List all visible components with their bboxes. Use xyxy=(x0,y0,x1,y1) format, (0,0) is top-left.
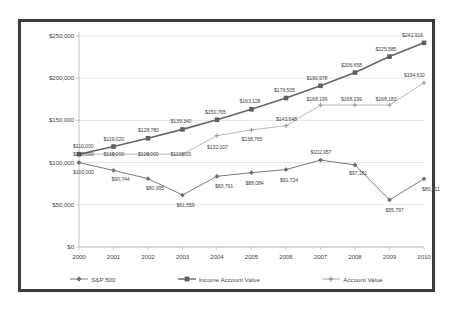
legend-item-sp500[interactable]: S&P 500 xyxy=(70,275,115,283)
data-point-label: $139,340 xyxy=(171,118,192,124)
data-point-marker xyxy=(180,127,185,132)
y-axis-tick-label: $50,000 xyxy=(21,201,74,208)
data-point-label: $100,000 xyxy=(73,169,94,175)
y-axis-tick-label: $0 xyxy=(21,243,74,250)
x-axis-tick-label: 2010 xyxy=(408,253,440,260)
data-point-label: $102,957 xyxy=(311,149,332,155)
line-cross-marker-icon xyxy=(322,275,340,283)
x-axis-tick-label: 2005 xyxy=(236,253,268,260)
data-point-label: $97,181 xyxy=(349,170,367,176)
data-point-label: $128,780 xyxy=(138,127,159,133)
data-point-marker xyxy=(422,176,427,181)
data-point-marker xyxy=(353,70,358,75)
data-point-marker xyxy=(180,193,185,198)
y-axis-tick-label: $150,000 xyxy=(21,116,74,123)
data-point-marker xyxy=(215,117,220,122)
x-axis-tick-label: 2001 xyxy=(98,253,130,260)
data-point-label: $80,995 xyxy=(146,185,164,191)
data-point-marker xyxy=(284,96,289,101)
data-point-marker xyxy=(318,84,323,89)
data-point-marker xyxy=(215,174,220,179)
data-point-label: $176,505 xyxy=(274,87,295,93)
data-point-marker xyxy=(422,41,427,46)
data-point-marker xyxy=(111,144,116,149)
data-point-label: $110,000 xyxy=(73,143,94,149)
data-point-label: $190,978 xyxy=(307,75,328,81)
data-point-marker xyxy=(284,167,289,172)
y-axis-tick-label: $200,000 xyxy=(21,74,74,81)
chart-legend: S&P 500 Income Account Value Accoun xyxy=(21,275,432,283)
data-point-marker xyxy=(77,160,82,165)
data-point-label: $150,765 xyxy=(205,109,226,115)
x-axis-tick-label: 2007 xyxy=(305,253,337,260)
data-point-label: $83,791 xyxy=(215,183,233,189)
y-axis-tick-label: $100,000 xyxy=(21,159,74,166)
data-point-label: $110,000 xyxy=(138,151,159,157)
data-point-marker xyxy=(387,54,392,59)
data-point-label: $91,724 xyxy=(280,177,298,183)
data-point-label: $55,797 xyxy=(386,207,404,213)
x-axis-tick-label: 2009 xyxy=(374,253,406,260)
x-axis-tick-label: 2000 xyxy=(63,253,95,260)
data-point-label: $88,084 xyxy=(246,180,264,186)
data-point-marker xyxy=(318,158,323,163)
data-point-label: $90,744 xyxy=(112,176,130,182)
data-point-label: $163,128 xyxy=(240,98,261,104)
data-point-marker xyxy=(146,176,151,181)
data-point-label: $138,765 xyxy=(242,136,263,142)
data-point-label: $168,183 xyxy=(376,96,397,102)
data-point-label: $143,648 xyxy=(276,116,297,122)
data-point-marker xyxy=(249,170,254,175)
data-point-marker xyxy=(111,168,116,173)
series-line-account-value xyxy=(79,83,424,154)
x-axis-tick-label: 2008 xyxy=(339,253,371,260)
legend-item-account-value[interactable]: Account Value xyxy=(322,275,382,283)
data-point-label: $225,585 xyxy=(376,46,397,52)
data-point-marker xyxy=(249,107,254,112)
data-point-label: $132,007 xyxy=(207,144,228,150)
data-point-label: $241,916 xyxy=(402,32,423,38)
data-point-label: $110,000 xyxy=(73,151,94,157)
data-point-label: $168,199 xyxy=(341,96,362,102)
chart-frame: $0$50,000$100,000$150,000$200,000$250,00… xyxy=(18,19,435,292)
line-square-marker-icon xyxy=(178,275,196,283)
data-point-label: $61,559 xyxy=(177,202,195,208)
data-point-label: $168,199 xyxy=(307,96,328,102)
chart-plot-area: $0$50,000$100,000$150,000$200,000$250,00… xyxy=(21,22,432,289)
x-axis-tick-label: 2003 xyxy=(167,253,199,260)
x-axis-tick-label: 2002 xyxy=(132,253,164,260)
data-point-label: $80,811 xyxy=(422,186,440,192)
legend-label-account-value: Account Value xyxy=(343,276,382,283)
data-point-label: $194,632 xyxy=(404,72,425,78)
legend-label-income-account-value: Income Account Value xyxy=(199,276,260,283)
screenshot-root: $0$50,000$100,000$150,000$200,000$250,00… xyxy=(0,0,453,320)
line-diamond-marker-icon xyxy=(70,275,88,283)
data-point-label: $110,000 xyxy=(104,151,125,157)
legend-label-sp500: S&P 500 xyxy=(91,276,115,283)
y-axis-tick-label: $250,000 xyxy=(21,32,74,39)
data-point-label: $119,020 xyxy=(104,136,125,142)
data-point-marker xyxy=(146,136,151,141)
x-axis-tick-label: 2006 xyxy=(270,253,302,260)
x-axis-tick-label: 2004 xyxy=(201,253,233,260)
data-point-label: $110,000 xyxy=(171,151,192,157)
legend-item-income-account-value[interactable]: Income Account Value xyxy=(178,275,260,283)
data-point-label: $206,658 xyxy=(341,62,362,68)
